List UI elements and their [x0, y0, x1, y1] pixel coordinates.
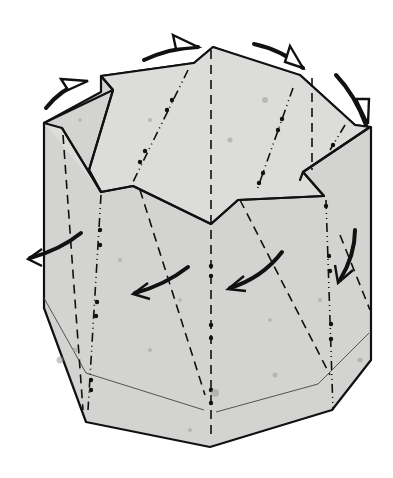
- rotation-arrow-2: [144, 35, 198, 60]
- origami-diagram: [0, 0, 393, 478]
